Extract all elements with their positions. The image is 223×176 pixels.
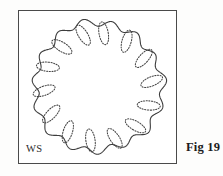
figure-frame: WS (18, 10, 177, 164)
figure-caption: Fig 19 (186, 141, 220, 154)
figure-page: WS Fig 19 (0, 0, 223, 176)
outline-group (32, 19, 166, 154)
stem-outline-path (32, 19, 166, 154)
specimen-label: WS (26, 144, 42, 155)
cross-section-diagram (19, 11, 178, 165)
